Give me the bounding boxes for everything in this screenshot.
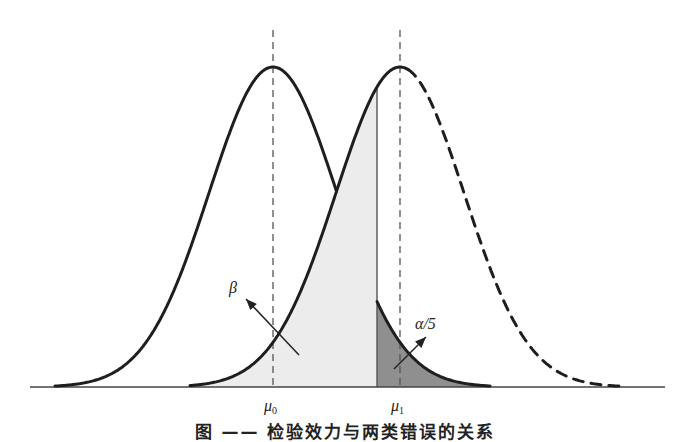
mu1-label: μ1 (391, 398, 404, 414)
alpha-label: α/5 (415, 316, 436, 332)
beta-label: β (229, 280, 237, 296)
beta-region-light-shade (190, 87, 377, 387)
mu0-label: μ0 (264, 398, 277, 414)
h1-normal-curve-dashed (408, 70, 625, 387)
figure-caption: 图 —— 检验效力与两类错误的关系 (0, 424, 690, 441)
